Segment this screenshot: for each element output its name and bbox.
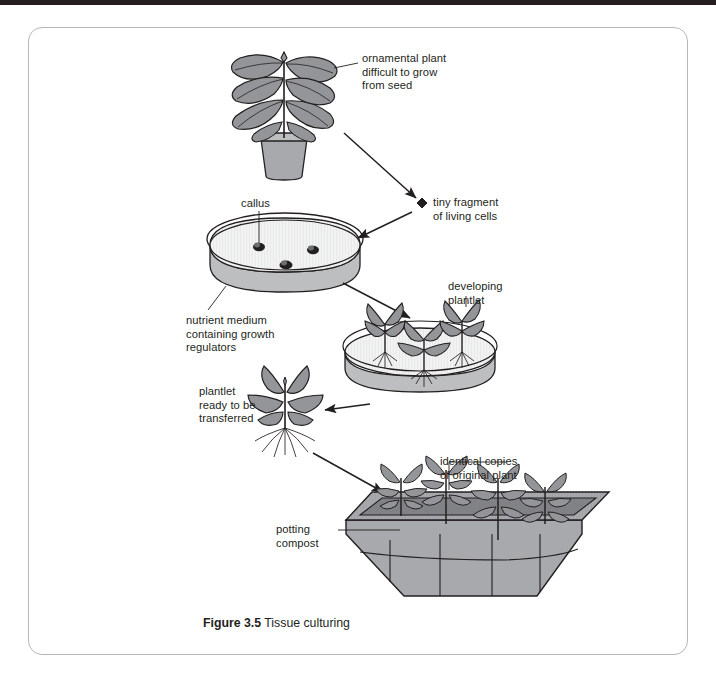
arrow-plantlet-to-tray (313, 453, 383, 492)
figure-tissue-culturing: ornamental plant difficult to grow from … (0, 0, 716, 682)
figure-caption: Figure 3.5 Tissue culturing (203, 616, 533, 630)
ornamental-plant-in-pot (232, 52, 337, 180)
plantlet-roots (255, 428, 315, 457)
plant-pot (259, 133, 309, 180)
callus-clump (280, 261, 293, 270)
petri-dish-with-callus (207, 213, 363, 292)
leader-line-nutrient-medium (208, 286, 226, 310)
label-developing-plantlet: developing plantlet (448, 280, 503, 307)
figure-title: Tissue culturing (264, 616, 350, 630)
figure-number: Figure 3.5 (203, 616, 261, 630)
identical-copy-plant (520, 473, 571, 524)
arrow-fragment-to-dish (358, 212, 412, 238)
arrow-plant-to-fragment (344, 133, 416, 198)
label-identical-copies: identical copies of original plant (440, 455, 517, 482)
plant-leaf (232, 77, 283, 103)
petri-dish-with-plantlets (343, 300, 497, 392)
leader-line-ornamental-plant (334, 63, 358, 68)
label-callus: callus (241, 197, 270, 211)
single-plantlet (248, 366, 323, 457)
identical-copy-plant (376, 464, 427, 516)
tiny-fragment-of-cells (417, 198, 427, 208)
figure-illustration (0, 0, 716, 682)
label-nutrient-medium: nutrient medium containing growth regula… (186, 314, 275, 355)
label-ornamental-plant: ornamental plant difficult to grow from … (362, 52, 446, 93)
label-tiny-fragment: tiny fragment of living cells (433, 196, 498, 223)
arrow-dish-to-single-plantlet (325, 404, 370, 410)
label-plantlet-ready: plantlet ready to be transferred (199, 385, 256, 426)
plant-leaf (232, 55, 283, 79)
label-potting-compost: potting compost (276, 523, 319, 550)
